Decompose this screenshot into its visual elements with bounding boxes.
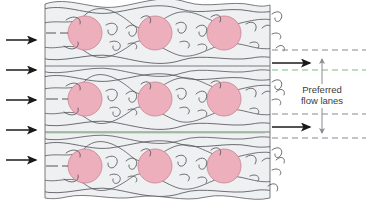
cell-nucleus <box>207 149 241 183</box>
flow-lane-legend: Preferred flow lanes <box>272 50 366 138</box>
tissue-flow-diagram: Preferred flow lanes <box>0 0 368 203</box>
cell-nucleus <box>68 149 102 183</box>
cell-nucleus <box>138 16 172 50</box>
tissue-block <box>40 0 274 199</box>
inflow-arrows <box>6 40 36 160</box>
cell-nucleus <box>138 82 172 116</box>
cell-nucleus <box>138 149 172 183</box>
figure-root: Preferred flow lanes <box>0 0 368 203</box>
preferred-flow-lanes-label-line1: Preferred <box>302 84 342 95</box>
cell-nucleus <box>207 82 241 116</box>
cell-nucleus <box>68 16 102 50</box>
cell-nucleus <box>207 16 241 50</box>
cell-nucleus <box>68 82 102 116</box>
tissue-interior <box>40 6 274 197</box>
preferred-flow-lanes-label-line2: flow lanes <box>301 95 343 106</box>
detached-fibers <box>268 12 284 191</box>
